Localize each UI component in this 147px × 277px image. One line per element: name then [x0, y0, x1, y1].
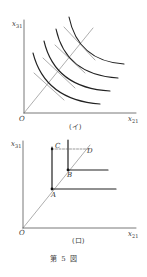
l-isoquant-a: [52, 147, 116, 189]
origin-ray: [23, 145, 90, 228]
origin-label-i: O: [19, 116, 25, 123]
x-axis-sub: 21: [132, 233, 138, 239]
tangent-line-4: [64, 27, 95, 60]
panel-ro: [23, 140, 136, 228]
panel-label-i: (イ): [69, 124, 81, 131]
l-isoquant-b: [68, 140, 108, 170]
tangent-line-1: [34, 73, 64, 100]
x-axis-label-i: x21: [128, 116, 138, 124]
y-axis-label-ro: x31: [11, 141, 21, 149]
y-axis-sub: 31: [16, 23, 22, 29]
point-label-b: B: [67, 172, 72, 179]
point-label-c: C: [55, 143, 60, 150]
origin-label-ro: O: [19, 230, 25, 237]
y-axis-label-i: x31: [12, 21, 22, 29]
panel-i: [24, 17, 136, 113]
x-axis-label-ro: x21: [128, 231, 138, 239]
figure-caption: 第 5 図: [50, 256, 78, 263]
point-label-a: A: [51, 192, 56, 199]
point-label-d: D: [87, 148, 93, 155]
point-c-dot: [51, 148, 53, 150]
y-axis-sub: 31: [15, 143, 21, 149]
indifference-curve-3: [56, 29, 118, 78]
x-axis-sub: 21: [132, 118, 138, 124]
indifference-curve-4: [69, 17, 124, 64]
panel-label-ro: (ロ): [72, 238, 84, 245]
point-a-dot: [51, 188, 54, 191]
